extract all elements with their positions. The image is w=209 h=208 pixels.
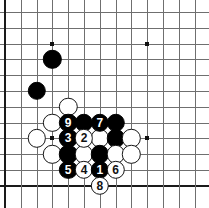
board-grid-line-vertical — [52, 0, 53, 208]
go-board-diagram: 973254168 — [0, 0, 209, 208]
board-grid-line-horizontal — [0, 75, 209, 76]
stone-white-move-2[interactable]: 2 — [75, 129, 93, 147]
stone-black-move-7[interactable]: 7 — [91, 113, 109, 131]
stone-black[interactable] — [27, 82, 45, 100]
star-point — [145, 136, 149, 140]
stone-move-number: 6 — [112, 164, 119, 176]
board-edge-line-left — [4, 0, 6, 208]
stone-move-number: 5 — [65, 164, 72, 176]
stone-move-number: 7 — [96, 116, 103, 128]
stone-white[interactable] — [122, 145, 140, 163]
stone-move-number: 4 — [81, 164, 88, 176]
stone-black[interactable] — [43, 50, 61, 68]
board-grid-line-vertical — [37, 0, 38, 208]
board-grid-line-horizontal — [0, 44, 209, 45]
star-point — [50, 136, 54, 140]
stone-move-number: 2 — [81, 132, 88, 144]
board-grid-line-horizontal — [0, 28, 209, 29]
board-grid-line-vertical — [131, 0, 132, 208]
star-point — [145, 42, 149, 46]
board-grid-line-horizontal — [0, 107, 209, 108]
stone-move-number: 1 — [96, 164, 103, 176]
star-point — [50, 42, 54, 46]
stone-white-move-6[interactable]: 6 — [106, 161, 124, 179]
stone-move-number: 9 — [65, 116, 72, 128]
stone-white-move-8[interactable]: 8 — [91, 177, 109, 195]
stone-move-number: 3 — [65, 132, 72, 144]
board-grid-line-horizontal — [0, 59, 209, 60]
board-grid-line-vertical — [147, 0, 148, 208]
board-grid-line-vertical — [21, 0, 22, 208]
stone-white[interactable] — [27, 129, 45, 147]
board-grid-line-vertical — [195, 0, 196, 208]
stone-move-number: 8 — [96, 180, 103, 192]
board-grid-line-vertical — [179, 0, 180, 208]
board-grid-line-vertical — [163, 0, 164, 208]
board-grid-line-horizontal — [0, 12, 209, 13]
go-board-surface[interactable]: 973254168 — [0, 0, 209, 208]
